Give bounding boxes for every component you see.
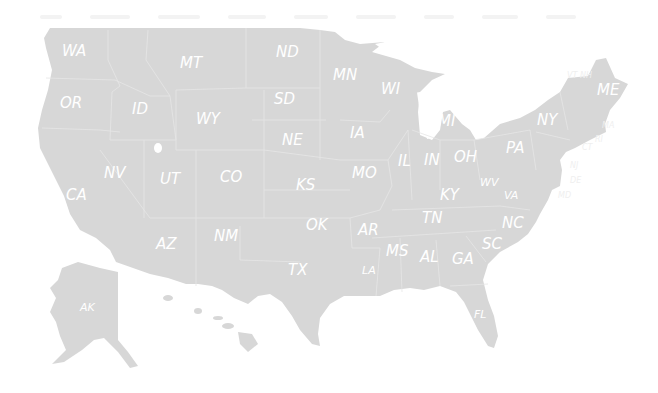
state-label-ia: IA bbox=[350, 124, 365, 142]
state-label-sc: SC bbox=[482, 235, 503, 253]
state-label-va: VA bbox=[504, 189, 518, 202]
state-label-ut: UT bbox=[160, 170, 182, 188]
state-label-nh: NH bbox=[580, 71, 592, 80]
state-label-al: AL bbox=[419, 248, 439, 266]
state-label-sd: SD bbox=[274, 90, 295, 108]
us-map: WAORIDMTWYNDSDNEMNWIIAMINYMEVTNHMACTRINJ… bbox=[0, 0, 658, 393]
state-label-la: LA bbox=[362, 264, 376, 277]
state-label-nv: NV bbox=[104, 164, 127, 182]
state-label-ca: CA bbox=[66, 186, 87, 204]
state-label-tx: TX bbox=[288, 261, 308, 279]
state-label-mn: MN bbox=[333, 66, 357, 84]
state-label-ky: KY bbox=[440, 186, 461, 204]
state-label-wi: WI bbox=[381, 80, 401, 98]
state-label-wv: WV bbox=[480, 176, 500, 189]
state-label-ar: AR bbox=[357, 221, 379, 239]
hawaii-shape bbox=[163, 295, 258, 352]
state-label-or: OR bbox=[60, 94, 82, 112]
state-label-ct: CT bbox=[582, 143, 594, 152]
state-label-fl: FL bbox=[474, 308, 486, 321]
state-label-ok: OK bbox=[306, 216, 329, 234]
state-label-ms: MS bbox=[386, 242, 409, 260]
alaska-shape bbox=[50, 262, 138, 368]
state-label-wy: WY bbox=[196, 110, 222, 128]
state-label-ga: GA bbox=[452, 250, 474, 268]
state-label-co: CO bbox=[220, 168, 242, 186]
state-label-wa: WA bbox=[62, 42, 86, 60]
state-label-me: ME bbox=[597, 81, 620, 99]
state-label-nm: NM bbox=[214, 227, 238, 245]
state-label-az: AZ bbox=[155, 235, 177, 253]
state-label-vt: VT bbox=[567, 71, 578, 80]
state-label-de: DE bbox=[570, 176, 582, 185]
state-label-md: MD bbox=[558, 191, 571, 200]
state-label-ri: RI bbox=[595, 135, 604, 144]
state-label-tn: TN bbox=[422, 209, 442, 227]
state-label-pa: PA bbox=[506, 139, 525, 157]
state-label-il: IL bbox=[398, 152, 411, 170]
state-label-mo: MO bbox=[352, 164, 377, 182]
state-label-mi: MI bbox=[438, 112, 456, 130]
state-label-ne: NE bbox=[282, 131, 303, 149]
state-label-nc: NC bbox=[502, 214, 524, 232]
state-label-ma: MA bbox=[602, 121, 614, 130]
state-label-nj: NJ bbox=[570, 161, 579, 170]
state-label-hi: HI bbox=[212, 342, 224, 355]
state-label-id: ID bbox=[132, 100, 148, 118]
state-label-ak: AK bbox=[79, 301, 96, 314]
state-label-oh: OH bbox=[454, 148, 477, 166]
state-label-in: IN bbox=[424, 151, 440, 169]
state-label-nd: ND bbox=[276, 43, 299, 61]
state-label-mt: MT bbox=[180, 54, 204, 72]
state-label-ny: NY bbox=[537, 111, 559, 129]
state-label-ks: KS bbox=[296, 176, 316, 194]
